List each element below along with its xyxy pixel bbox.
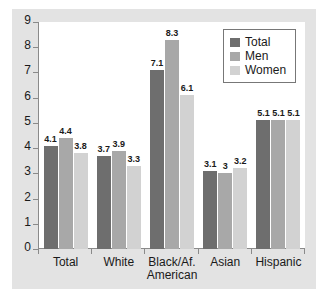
bar-chart-figure: 0123456789 4.14.43.83.73.93.37.18.36.13.…	[0, 0, 326, 302]
bar-value-label: 8.3	[159, 29, 185, 38]
x-axis-tick	[304, 249, 305, 254]
bar-group: 4.14.43.8	[44, 22, 88, 249]
chart-panel: 0123456789 4.14.43.83.73.93.37.18.36.13.…	[12, 9, 316, 289]
bar-group: 7.18.36.1	[150, 22, 194, 249]
y-axis-tick-label: 5	[24, 115, 31, 127]
y-axis-tick-label: 9	[24, 14, 31, 26]
legend-swatch-icon	[230, 38, 240, 47]
x-axis-tick	[198, 249, 199, 254]
bar-total	[203, 171, 217, 249]
bar-women	[233, 168, 247, 249]
y-axis-tick: 2	[12, 199, 38, 200]
bar-women	[74, 153, 88, 249]
x-axis-category-label: Asian	[199, 256, 252, 269]
x-axis-category-line: Asian	[199, 256, 252, 269]
x-axis-category-label: Total	[39, 256, 92, 269]
y-axis: 0123456789	[12, 22, 38, 250]
bar-value-label: 6.1	[174, 84, 200, 93]
bar-value-label: 3.8	[68, 142, 94, 151]
y-axis-tick-label: 7	[24, 64, 31, 76]
x-axis-category-line: White	[92, 256, 145, 269]
x-axis-tick	[144, 249, 145, 254]
y-axis-tick: 4	[12, 148, 38, 149]
y-axis-tick: 3	[12, 173, 38, 174]
y-axis-tick-label: 8	[24, 39, 31, 51]
bar-women	[180, 95, 194, 249]
x-axis-category-label: Hispanic	[252, 256, 305, 269]
bar-total	[97, 156, 111, 249]
x-axis-ticks	[38, 249, 305, 254]
bar-value-label: 3.9	[106, 140, 132, 149]
bar-men	[271, 120, 285, 249]
y-axis-tick: 7	[12, 72, 38, 73]
x-axis-category-line: Total	[39, 256, 92, 269]
x-axis-category-label: Black/Af.American	[145, 256, 198, 282]
y-axis-tick: 6	[12, 98, 38, 99]
bar-value-label: 3.3	[121, 155, 147, 164]
legend-swatch-icon	[230, 52, 240, 61]
bar-value-label: 4.4	[53, 127, 79, 136]
y-axis-tick: 5	[12, 123, 38, 124]
x-axis-category-label: White	[92, 256, 145, 269]
bar-women	[286, 120, 300, 249]
legend-item-label: Men	[245, 50, 268, 62]
y-axis-tick: 0	[12, 249, 38, 250]
y-axis-tick: 8	[12, 47, 38, 48]
x-axis-tick	[91, 249, 92, 254]
legend-swatch-icon	[230, 66, 240, 75]
x-axis-category-line: American	[145, 269, 198, 282]
legend-item: Men	[230, 49, 286, 63]
legend-item-label: Total	[245, 36, 270, 48]
bar-total	[150, 70, 164, 249]
bar-men	[59, 138, 73, 249]
y-axis-tick-label: 1	[24, 216, 31, 228]
legend-item: Women	[230, 63, 286, 77]
x-axis-category-line: Hispanic	[252, 256, 305, 269]
chart-legend: TotalMenWomen	[223, 29, 296, 83]
bar-group: 3.73.93.3	[97, 22, 141, 249]
bar-men	[112, 151, 126, 249]
y-axis-tick-label: 0	[24, 241, 31, 253]
bar-women	[127, 166, 141, 249]
bar-total	[256, 120, 270, 249]
y-axis-tick-label: 2	[24, 191, 31, 203]
bar-men	[218, 173, 232, 249]
y-axis-tick-label: 4	[24, 140, 31, 152]
legend-item-label: Women	[245, 64, 286, 76]
x-axis-labels: TotalWhiteBlack/Af.AmericanAsianHispanic	[38, 256, 305, 290]
x-axis-tick	[251, 249, 252, 254]
x-axis-tick	[38, 249, 39, 254]
y-axis-tick: 9	[12, 22, 38, 23]
bar-value-label: 5.1	[280, 109, 306, 118]
y-axis-tick-label: 6	[24, 90, 31, 102]
bar-value-label: 3.2	[227, 157, 253, 166]
bar-men	[165, 40, 179, 249]
bar-total	[44, 146, 58, 249]
y-axis-tick-label: 3	[24, 165, 31, 177]
y-axis-tick: 1	[12, 224, 38, 225]
legend-item: Total	[230, 35, 286, 49]
